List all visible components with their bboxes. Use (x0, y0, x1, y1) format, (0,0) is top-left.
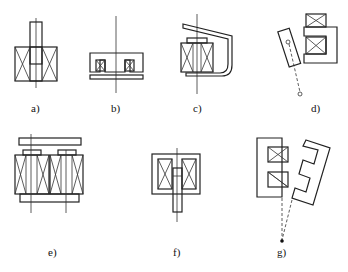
electromagnet-diagram: a) b) c) d) (0, 0, 348, 272)
label-g: g) (277, 246, 287, 259)
label-e: e) (48, 246, 57, 259)
panel-d: d) (278, 14, 337, 115)
label-a: a) (31, 102, 40, 115)
panel-a: a) (15, 18, 57, 115)
label-b: b) (111, 102, 121, 115)
panel-f: f) (152, 148, 200, 259)
label-f: f) (173, 246, 181, 259)
panel-e: e) (15, 134, 83, 259)
panel-g: g) (257, 138, 330, 259)
panel-c: c) (181, 14, 232, 115)
label-d: d) (311, 102, 321, 115)
pivot-point (280, 239, 284, 243)
label-c: c) (193, 102, 202, 115)
panel-b: b) (90, 16, 143, 115)
